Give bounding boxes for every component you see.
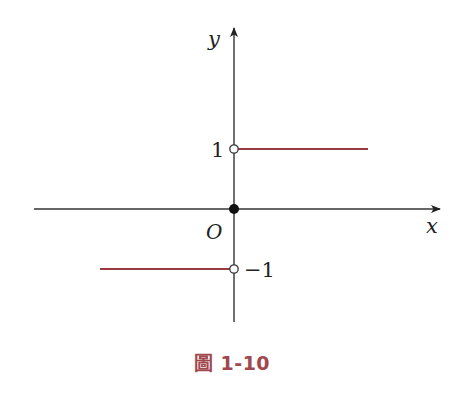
y-axis-label: y [207, 27, 221, 51]
figure-caption: 圖 1-10 [0, 348, 464, 375]
open-point-y-neg1 [230, 265, 238, 273]
tick-label-1: 1 [211, 138, 224, 162]
filled-point-origin [229, 204, 239, 214]
open-point-y1 [230, 145, 238, 153]
x-axis-label: x [426, 214, 438, 238]
tick-label-neg1: −1 [244, 258, 275, 282]
origin-label: O [206, 220, 222, 244]
step-function-graph: y x O 1 −1 [0, 0, 464, 395]
